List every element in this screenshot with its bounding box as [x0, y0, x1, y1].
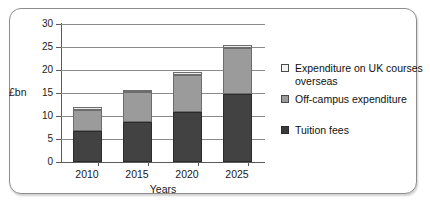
- y-tick-label-15: 15: [13, 88, 53, 98]
- bar-2020-overseas-expenditure[interactable]: [173, 72, 202, 75]
- bar-2020-tuition-fees[interactable]: [173, 112, 202, 162]
- x-tick-label-2025: 2025: [214, 168, 260, 180]
- y-tick-label-0: 0: [13, 157, 53, 167]
- bar-2025-overseas-expenditure[interactable]: [223, 45, 252, 48]
- legend-label-tuition-fees: Tuition fees: [295, 124, 427, 137]
- x-tick-mark-2: [148, 162, 149, 166]
- legend-swatch-off-campus-icon: [281, 95, 289, 103]
- legend-swatch-tuition-fees-icon: [281, 126, 289, 134]
- legend-label-overseas: Expenditure on UK courses overseas: [295, 62, 427, 87]
- legend-item-off-campus[interactable]: Off-campus expenditure: [281, 93, 427, 106]
- x-tick-mark-4: [248, 162, 249, 166]
- gridline-30: [61, 24, 265, 25]
- legend-swatch-overseas-icon: [281, 64, 289, 72]
- bar-2025-off-campus-expenditure[interactable]: [223, 48, 252, 94]
- legend-label-off-campus: Off-campus expenditure: [295, 93, 427, 106]
- y-tick-label-25: 25: [13, 42, 53, 52]
- x-tick-label-2010: 2010: [64, 168, 110, 180]
- bar-2025-tuition-fees[interactable]: [223, 94, 252, 162]
- x-axis-title: Years: [61, 183, 265, 195]
- bar-2010-off-campus-expenditure[interactable]: [73, 110, 102, 131]
- y-tick-label-10: 10: [13, 111, 53, 121]
- x-tick-label-2020: 2020: [164, 168, 210, 180]
- y-tick-label-5: 5: [13, 134, 53, 144]
- bar-2010-overseas-expenditure[interactable]: [73, 107, 102, 110]
- legend-item-tuition-fees[interactable]: Tuition fees: [281, 124, 427, 137]
- x-tick-mark-3: [198, 162, 199, 166]
- bar-2015-tuition-fees[interactable]: [123, 122, 152, 162]
- plot-area: [61, 24, 265, 162]
- stacked-bar-chart: £bn 30 25 20 15 10 5 0: [0, 0, 430, 213]
- x-tick-mark-1: [98, 162, 99, 166]
- bar-2015-overseas-expenditure[interactable]: [123, 90, 152, 92]
- x-tick-label-2015: 2015: [114, 168, 160, 180]
- legend-item-overseas[interactable]: Expenditure on UK courses overseas: [281, 62, 427, 87]
- x-axis-line: [61, 162, 265, 163]
- bar-2020-off-campus-expenditure[interactable]: [173, 75, 202, 112]
- bar-2015-off-campus-expenditure[interactable]: [123, 92, 152, 122]
- y-tick-label-30: 30: [13, 19, 53, 29]
- y-tick-label-20: 20: [13, 65, 53, 75]
- bar-2010-tuition-fees[interactable]: [73, 131, 102, 162]
